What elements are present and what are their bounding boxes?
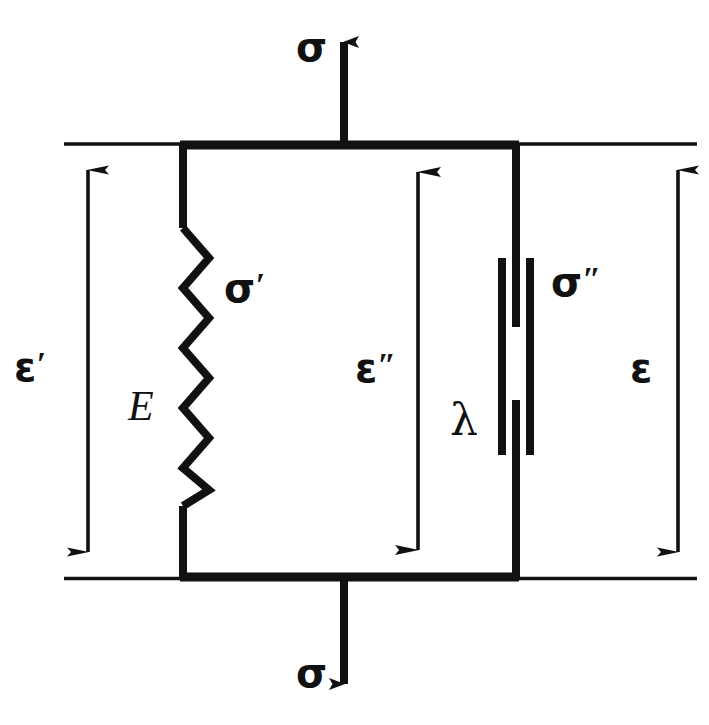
sigma-prime-base: σ xyxy=(224,265,255,311)
epsilon-double-prime-mark: ″ xyxy=(377,346,395,383)
epsilon-prime-mark: ′ xyxy=(36,345,45,382)
rheological-model-diagram: σ σ σ′ σ″ ε′ ε″ ε E λ xyxy=(0,0,709,725)
label-sigma-top: σ xyxy=(296,27,327,67)
sigma-prime-mark: ′ xyxy=(255,266,264,303)
label-sigma-bottom: σ xyxy=(296,653,327,693)
spring-coil-path xyxy=(183,228,209,506)
label-sigma-prime: σ′ xyxy=(224,268,264,308)
epsilon-double-prime-base: ε xyxy=(355,345,377,391)
label-elastic-modulus: E xyxy=(128,385,154,427)
label-viscosity: λ xyxy=(450,398,478,442)
epsilon-prime-base: ε xyxy=(14,344,36,390)
sigma-double-prime-base: σ xyxy=(551,259,582,305)
label-epsilon-total: ε xyxy=(630,348,652,388)
label-epsilon-double-prime: ε″ xyxy=(355,348,395,388)
label-sigma-double-prime: σ″ xyxy=(551,262,600,302)
spring-element xyxy=(183,145,209,577)
label-epsilon-prime: ε′ xyxy=(14,347,45,387)
sigma-double-prime-mark: ″ xyxy=(582,260,600,297)
dashpot-element xyxy=(502,145,530,577)
rigid-platens xyxy=(180,145,519,577)
